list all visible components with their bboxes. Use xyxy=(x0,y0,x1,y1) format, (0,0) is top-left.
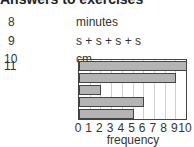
x-tick-label: 10 xyxy=(178,121,191,135)
plot-area xyxy=(78,59,187,120)
question-number: 8 xyxy=(8,15,15,29)
x-tick-label: 1 xyxy=(85,121,92,135)
question-number: 9 xyxy=(8,34,15,48)
bar-fish xyxy=(79,97,144,107)
bar-cat xyxy=(79,73,176,83)
bar-dog xyxy=(79,85,101,95)
bar-other xyxy=(79,109,134,119)
page-header: Answers to exercises xyxy=(0,0,143,7)
x-tick-label: 9 xyxy=(171,121,178,135)
x-tick-label: 8 xyxy=(160,121,167,135)
x-axis-label: frequency xyxy=(107,133,160,147)
question-number: 11 xyxy=(4,59,16,73)
answer-text: minutes xyxy=(76,15,118,29)
bar-no-pets xyxy=(79,61,187,71)
x-tick-label: 0 xyxy=(75,121,82,135)
answer-text: s + s + s + s xyxy=(76,34,141,48)
x-tick-label: 2 xyxy=(96,121,103,135)
